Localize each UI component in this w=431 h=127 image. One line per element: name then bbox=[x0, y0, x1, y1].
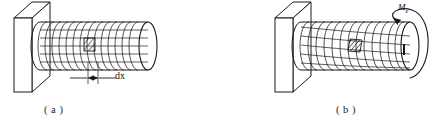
torque-label-me: Me bbox=[398, 2, 408, 14]
panel-b bbox=[275, 2, 428, 92]
figure-root: Me dx ( a ) ( b ) bbox=[0, 0, 431, 127]
wall-support-a bbox=[14, 2, 50, 92]
panel-a bbox=[14, 2, 157, 92]
surface-element-a bbox=[84, 38, 95, 51]
surface-element-b bbox=[348, 39, 362, 52]
torsion-figure-svg bbox=[0, 0, 431, 127]
torque-label-subscript: e bbox=[406, 7, 409, 14]
dx-label: dx bbox=[115, 70, 125, 81]
torque-label-symbol: M bbox=[398, 2, 406, 12]
caption-a: ( a ) bbox=[44, 104, 63, 115]
wall-support-b bbox=[275, 2, 311, 92]
caption-b: ( b ) bbox=[336, 104, 356, 115]
